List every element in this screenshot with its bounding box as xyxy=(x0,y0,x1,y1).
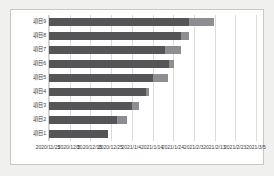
table-row xyxy=(49,74,256,82)
bar-segment xyxy=(165,46,182,54)
table-row xyxy=(49,18,256,26)
x-tick-label: 2021/2/23 xyxy=(224,145,246,150)
bar-segment xyxy=(49,60,169,68)
x-axis-tick-labels: 2020/11/252020/12/52020/12/152020/12/252… xyxy=(34,145,258,157)
category-label: 項目3 xyxy=(14,103,48,108)
bar-segment xyxy=(49,88,146,96)
bar-segment xyxy=(132,102,139,110)
bar-segment xyxy=(49,46,165,54)
category-label: 項目6 xyxy=(14,61,48,66)
chart-plot-wrapper: 項目9項目8項目7項目6項目5項目4項目3項目2項目1 2020/11/2520… xyxy=(14,13,260,161)
x-tick-label: 2021/1/24 xyxy=(162,145,184,150)
category-label: 項目9 xyxy=(14,19,48,24)
x-tick-label: 2021/1/14 xyxy=(141,145,163,150)
x-tick-label: 2021/3/5 xyxy=(246,145,265,150)
bar-segment xyxy=(49,74,153,82)
bar-series-group xyxy=(49,15,256,141)
category-label: 項目4 xyxy=(14,89,48,94)
table-row xyxy=(49,88,256,96)
x-tick-label: 2020/11/25 xyxy=(36,145,61,150)
table-row xyxy=(49,32,256,40)
gridline xyxy=(256,15,257,141)
bar-segment xyxy=(153,74,169,82)
category-label: 項目2 xyxy=(14,117,48,122)
plot-area xyxy=(48,15,256,141)
category-axis-labels: 項目9項目8項目7項目6項目5項目4項目3項目2項目1 xyxy=(14,15,48,141)
bar-segment xyxy=(49,102,132,110)
x-tick-label: 2020/12/25 xyxy=(98,145,123,150)
bar-segment xyxy=(146,88,149,96)
category-label: 項目8 xyxy=(14,33,48,38)
table-row xyxy=(49,46,256,54)
bar-segment xyxy=(49,18,189,26)
category-label: 項目1 xyxy=(14,131,48,136)
bar-segment xyxy=(117,116,126,124)
table-row xyxy=(49,130,256,138)
bar-segment xyxy=(49,130,108,138)
table-row xyxy=(49,60,256,68)
bar-segment xyxy=(181,32,188,40)
category-label: 項目7 xyxy=(14,47,48,52)
bar-segment xyxy=(49,32,181,40)
bar-segment xyxy=(189,18,214,26)
bar-segment xyxy=(49,116,117,124)
category-label: 項目5 xyxy=(14,75,48,80)
x-tick-label: 2021/2/3 xyxy=(184,145,203,150)
x-tick-label: 2021/2/13 xyxy=(203,145,225,150)
table-row xyxy=(49,102,256,110)
bar-segment xyxy=(169,60,174,68)
x-tick-label: 2021/1/4 xyxy=(121,145,140,150)
chart-frame: 項目9項目8項目7項目6項目5項目4項目3項目2項目1 2020/11/2520… xyxy=(10,9,264,165)
table-row xyxy=(49,116,256,124)
